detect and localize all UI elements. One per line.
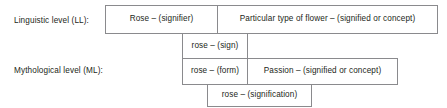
cell-rose-signification: rose – (signification) — [207, 84, 312, 107]
row-label-mythological-level: Mythological level (ML): — [14, 67, 103, 75]
row-label-linguistic-level: Linguistic level (LL): — [14, 17, 89, 25]
cell-rose-form: rose – (form) — [182, 58, 248, 85]
cell-rose-signifier: Rose – (signifier) — [105, 5, 218, 34]
cell-rose-sign: rose – (sign) — [182, 33, 248, 59]
cell-passion-signified: Passion – (signified or concept) — [247, 58, 398, 85]
semiotic-levels-diagram: Linguistic level (LL): Mythological leve… — [0, 0, 447, 108]
cell-particular-type-of-flower-signified: Particular type of flower – (signified o… — [217, 5, 438, 34]
